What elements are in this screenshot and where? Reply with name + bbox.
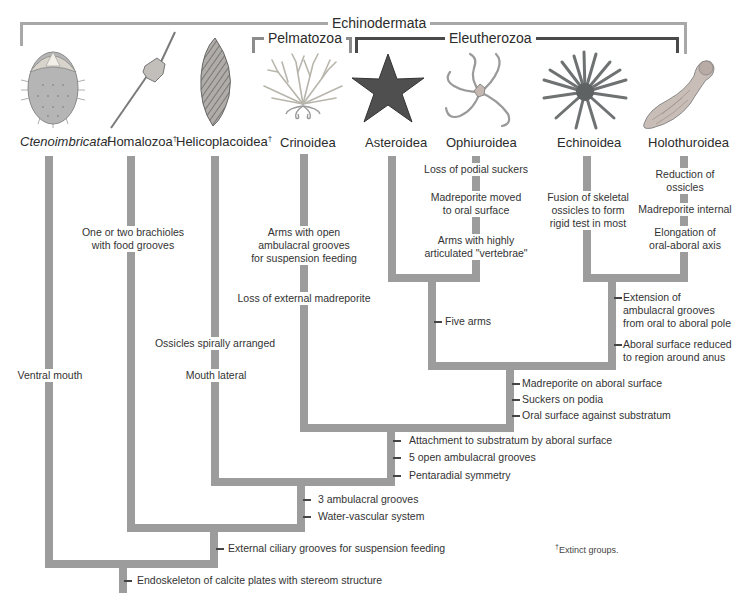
char-elongation-axis: Elongation of oral-aboral axis — [640, 226, 730, 252]
taxon-label-holothuroidea: Holothuroidea — [648, 135, 729, 150]
char-water-vascular: Water-vascular system — [318, 510, 424, 523]
char-aboral-reduced: Aboral surface reduced to region around … — [623, 338, 732, 364]
branch-homalozoa — [127, 156, 135, 532]
char-loss-madreporite: Loss of external madreporite — [234, 292, 374, 305]
taxon-label-asteroidea: Asteroidea — [365, 135, 427, 150]
taxon-label-ctenoimbricata: Ctenoimbricata† — [20, 134, 112, 149]
branch-helicoplacoidea — [211, 156, 219, 486]
helicoplacoidea-illustration — [195, 36, 235, 132]
sea-urchin-illustration — [540, 50, 630, 134]
char-3-grooves: 3 ambulacral grooves — [318, 493, 418, 506]
branch-ctenoimbricata — [45, 156, 53, 568]
homalozoa-illustration — [105, 30, 185, 134]
char-madreporite-oral: Madreporite moved to oral surface — [430, 191, 522, 217]
echinodermata-label: Echinodermata — [328, 15, 430, 31]
eleutherozoa-label: Eleutherozoa — [445, 30, 536, 46]
taxon-label-ophiuroidea: Ophiuroidea — [446, 135, 517, 150]
char-arms-open-grooves: Arms with open ambulacral grooves for su… — [244, 226, 364, 265]
char-arms-vertebrae: Arms with highly articulated "vertebrae" — [420, 234, 532, 260]
char-brachioles: One or two brachioles with food grooves — [72, 226, 194, 252]
char-endoskeleton: Endoskeleton of calcite plates with ster… — [137, 574, 382, 587]
branch-asteroidea — [388, 156, 396, 281]
sea-star-illustration — [350, 52, 426, 130]
char-madreporite-internal: Madreporite internal — [638, 203, 732, 216]
char-suckers-podia: Suckers on podia — [522, 393, 603, 406]
crinoid-illustration — [258, 52, 348, 126]
sea-cucumber-illustration — [638, 54, 718, 134]
taxon-label-crinoidea: Crinoidea — [280, 135, 336, 150]
char-attachment-aboral: Attachment to substratum by aboral surfa… — [409, 434, 612, 447]
char-ventral-mouth: Ventral mouth — [10, 369, 90, 382]
footnote-extinct: †Extinct groups. — [555, 543, 618, 555]
taxon-label-helicoplacoidea: Helicoplacoidea† — [176, 134, 272, 149]
char-5-grooves: 5 open ambulacral grooves — [409, 451, 536, 464]
taxon-label-echinoidea: Echinoidea — [557, 135, 621, 150]
char-five-arms: Five arms — [445, 315, 491, 328]
char-oral-substratum: Oral surface against substratum — [522, 409, 671, 422]
char-ossicles-spirally: Ossicles spirally arranged — [150, 337, 280, 350]
char-madreporite-aboral: Madreporite on aboral surface — [522, 377, 662, 390]
char-mouth-lateral: Mouth lateral — [180, 369, 252, 382]
brittle-star-illustration — [440, 50, 520, 134]
char-extension-grooves: Extension of ambulacral grooves from ora… — [623, 291, 731, 330]
char-pentaradial: Pentaradial symmetry — [409, 469, 511, 482]
char-reduction-ossicles: Reduction of ossicles — [650, 168, 720, 194]
char-ciliary-grooves: External ciliary grooves for suspension … — [228, 542, 445, 555]
pelmatozoa-label: Pelmatozoa — [264, 30, 346, 46]
char-loss-podial-suckers: Loss of podial suckers — [424, 163, 528, 176]
char-fusion-ossicles: Fusion of skeletal ossicles to form rigi… — [543, 191, 633, 230]
taxon-label-homalozoa: Homalozoa† — [107, 134, 177, 149]
ctenoimbricata-illustration — [18, 40, 88, 134]
